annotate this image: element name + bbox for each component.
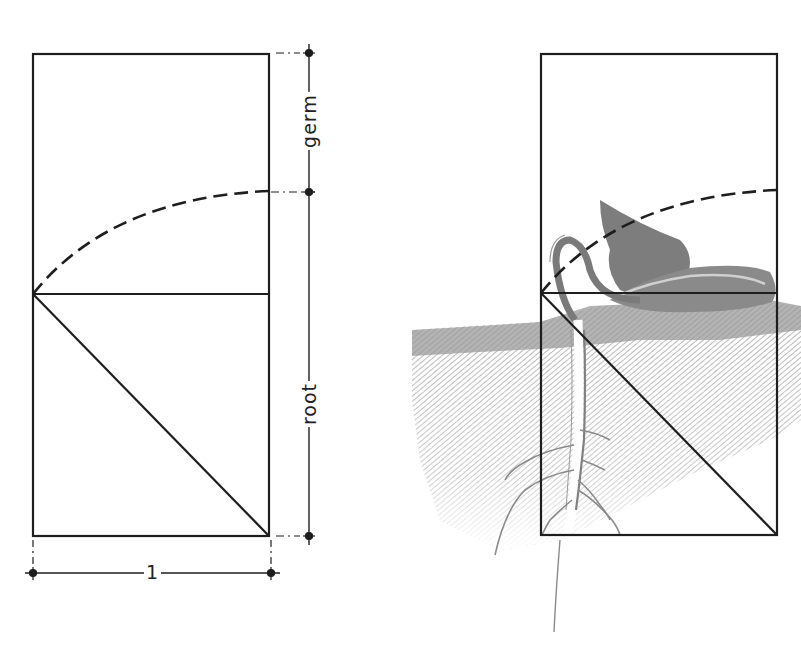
root-label: root: [300, 381, 319, 427]
marker-unit-right: [268, 567, 275, 580]
germ-label: germ: [300, 92, 319, 150]
left-construction: [25, 44, 318, 573]
marker-arc: [303, 189, 315, 196]
diagram-canvas: [0, 0, 801, 664]
marker-germ-top: [303, 50, 315, 57]
marker-unit-left: [30, 567, 37, 580]
seedling-illustration: [412, 200, 801, 632]
marker-root-bottom: [303, 533, 315, 540]
golden-arc: [33, 191, 269, 294]
unit-label: 1: [144, 563, 161, 582]
golden-section-figure: germ root 1: [0, 0, 801, 664]
dimension-markers: [30, 50, 316, 581]
diagonal-line: [33, 294, 269, 536]
